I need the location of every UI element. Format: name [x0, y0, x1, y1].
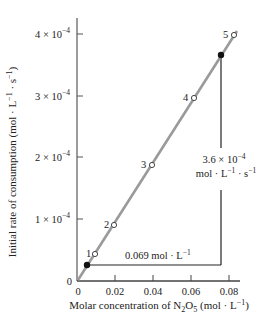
point-label-2: 2	[104, 219, 109, 230]
data-point-1	[92, 251, 97, 256]
point-label-4: 4	[183, 92, 189, 103]
x-tick-labels: 0 0.02 0.04 0.06 0.08	[75, 286, 238, 297]
slope-point-upper	[218, 52, 224, 58]
y-tick-label-0: 0	[67, 276, 72, 287]
point-labels: 1 2 3 4 5	[86, 29, 228, 259]
x-tick-label-4: 0.08	[220, 286, 238, 297]
run-annotation: 0.069 mol · L−1	[125, 248, 191, 261]
y-tick-label-2: 2 × 10−4	[35, 149, 70, 163]
x-tick-label-2: 0.04	[144, 286, 163, 297]
y-tick-labels: 1 × 10−4 2 × 10−4 3 × 10−4 4 × 10−4 0	[35, 26, 72, 287]
point-label-1: 1	[86, 248, 91, 259]
x-tick-label-0: 0	[75, 286, 80, 297]
data-point-4	[191, 95, 196, 100]
cropped-caption	[4, 316, 264, 325]
point-label-5: 5	[223, 29, 228, 40]
x-ticks	[115, 275, 229, 281]
x-tick-label-3: 0.06	[182, 286, 200, 297]
y-tick-label-3: 3 × 10−4	[35, 88, 70, 102]
y-ticks	[77, 34, 83, 219]
y-tick-label-4: 4 × 10−4	[35, 26, 70, 40]
slope-point-lower	[84, 262, 90, 268]
y-axis-title: Initial rate of consumption (mol · L−1 ·…	[5, 66, 19, 257]
data-point-3	[149, 162, 154, 167]
x-tick-label-1: 0.02	[106, 286, 124, 297]
rise-annotation-line1: 3.6 × 10−4	[203, 152, 246, 165]
data-point-5	[231, 32, 236, 37]
data-point-2	[111, 222, 116, 227]
x-axis-title: Molar concentration of N2O5 (mol · L−1)	[69, 298, 249, 314]
point-label-3: 3	[141, 159, 146, 170]
y-tick-label-1: 1 × 10−4	[35, 211, 70, 225]
chart: 1 × 10−4 2 × 10−4 3 × 10−4 4 × 10−4 0 0 …	[0, 0, 268, 325]
rise-annotation-line2: mol · L−1 · s−1	[196, 166, 257, 179]
